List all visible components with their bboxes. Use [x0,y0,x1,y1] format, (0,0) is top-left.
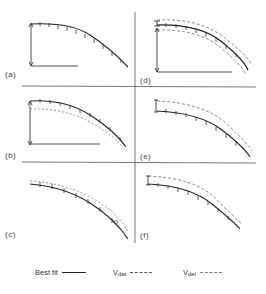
data-points [40,22,121,63]
v-dat-curve [30,109,126,151]
panel-label-b: (b) [5,151,16,160]
legend-best-fit-label: Best fit [35,268,58,277]
best-fit-curve [157,25,248,70]
v-del-lower-curve [157,30,246,75]
dashed-line-swatch [200,272,222,273]
legend-v-del-sub: del [188,271,196,277]
panel-e-plot [154,100,252,157]
best-fit-curve [157,111,250,157]
panel-dividers [22,12,256,243]
legend-v-dat: Vdat [113,268,152,277]
panel-c-plot [30,181,128,239]
solid-line-swatch [62,272,86,273]
panel-label-c: (c) [5,230,16,239]
dashed-line-swatch [130,272,152,273]
legend-v-dat-sub: dat [118,271,126,277]
legend: Best fit Vdat Vdel [0,268,266,284]
best-fit-curve [31,24,128,67]
legend-best-fit: Best fit [35,268,86,277]
v-dat-upper-curve [157,20,251,64]
best-fit-curve [148,184,240,229]
panel-a-plot [29,22,128,67]
best-fit-curve [30,184,128,239]
panel-label-a: (a) [5,70,16,79]
panel-label-f: (f) [140,231,149,240]
panel-d-plot [154,20,251,75]
panel-f-plot [146,176,242,229]
figure-canvas [0,0,266,294]
panel-b-plot [28,99,126,151]
panel-label-d: (d) [140,76,151,85]
best-fit-curve [30,101,126,147]
panel-label-e: (e) [140,152,151,161]
legend-v-del: Vdel [183,268,222,277]
v-dat-curve [30,181,128,232]
